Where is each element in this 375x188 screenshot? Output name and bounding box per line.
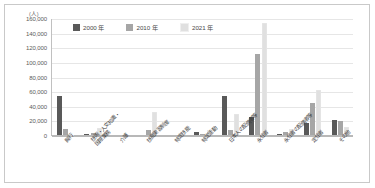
bar — [277, 134, 282, 135]
y-axis-tick: 100,000 — [26, 60, 47, 66]
bar — [332, 120, 337, 135]
bar-group — [189, 19, 216, 135]
bar-group — [79, 19, 106, 135]
bar-group — [327, 19, 354, 135]
y-axis-tick: 80,000 — [29, 75, 47, 81]
bar — [194, 132, 199, 135]
y-axis-tick: 0 — [44, 133, 47, 139]
bar — [84, 134, 89, 135]
x-axis-tick-labels: 興行技術・人文知識・国際業務介護技能実習制度特定技能特定活動日本人の配偶者等永住… — [51, 136, 353, 188]
chart-frame: (人) 160,000140,000120,000100,00080,00060… — [4, 4, 370, 183]
bar — [262, 23, 267, 135]
y-axis-tick-labels: 160,000140,000120,000100,00080,00060,000… — [5, 13, 49, 141]
bar — [304, 123, 309, 135]
y-axis-tick: 40,000 — [29, 104, 47, 110]
y-axis-tick: 20,000 — [29, 118, 47, 124]
bar-group — [134, 19, 161, 135]
bar-group — [272, 19, 299, 135]
y-axis-tick: 140,000 — [26, 31, 47, 37]
y-axis-tick: 120,000 — [26, 45, 47, 51]
bar — [255, 54, 260, 135]
bar — [310, 103, 315, 135]
bar-group — [162, 19, 189, 135]
y-axis-tick: 160,000 — [26, 16, 47, 22]
bar — [222, 96, 227, 135]
bar-group — [52, 19, 79, 135]
bar-group — [217, 19, 244, 135]
bar — [57, 96, 62, 135]
y-axis-tick: 60,000 — [29, 89, 47, 95]
